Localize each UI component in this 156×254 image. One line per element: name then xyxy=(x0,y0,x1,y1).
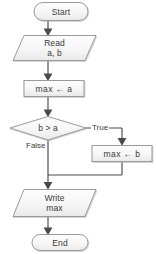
node-end-shape xyxy=(32,235,88,251)
flowchart-diagram: Start Read a, b max ← a b > a max ← b Wr… xyxy=(0,0,156,254)
arrowhead-to-assign-b xyxy=(118,138,127,146)
node-assign-max-b-shape xyxy=(92,146,152,162)
edge-label-false: False xyxy=(25,141,47,150)
node-assign-max-a-shape xyxy=(24,81,84,97)
flowchart-svg xyxy=(0,0,156,254)
edge-label-true: True xyxy=(91,123,109,132)
node-write-shape xyxy=(13,190,96,217)
arrowhead-to-write xyxy=(44,182,53,190)
node-start-shape xyxy=(34,3,88,21)
node-read-shape xyxy=(13,36,96,61)
node-decision-shape xyxy=(10,117,86,141)
